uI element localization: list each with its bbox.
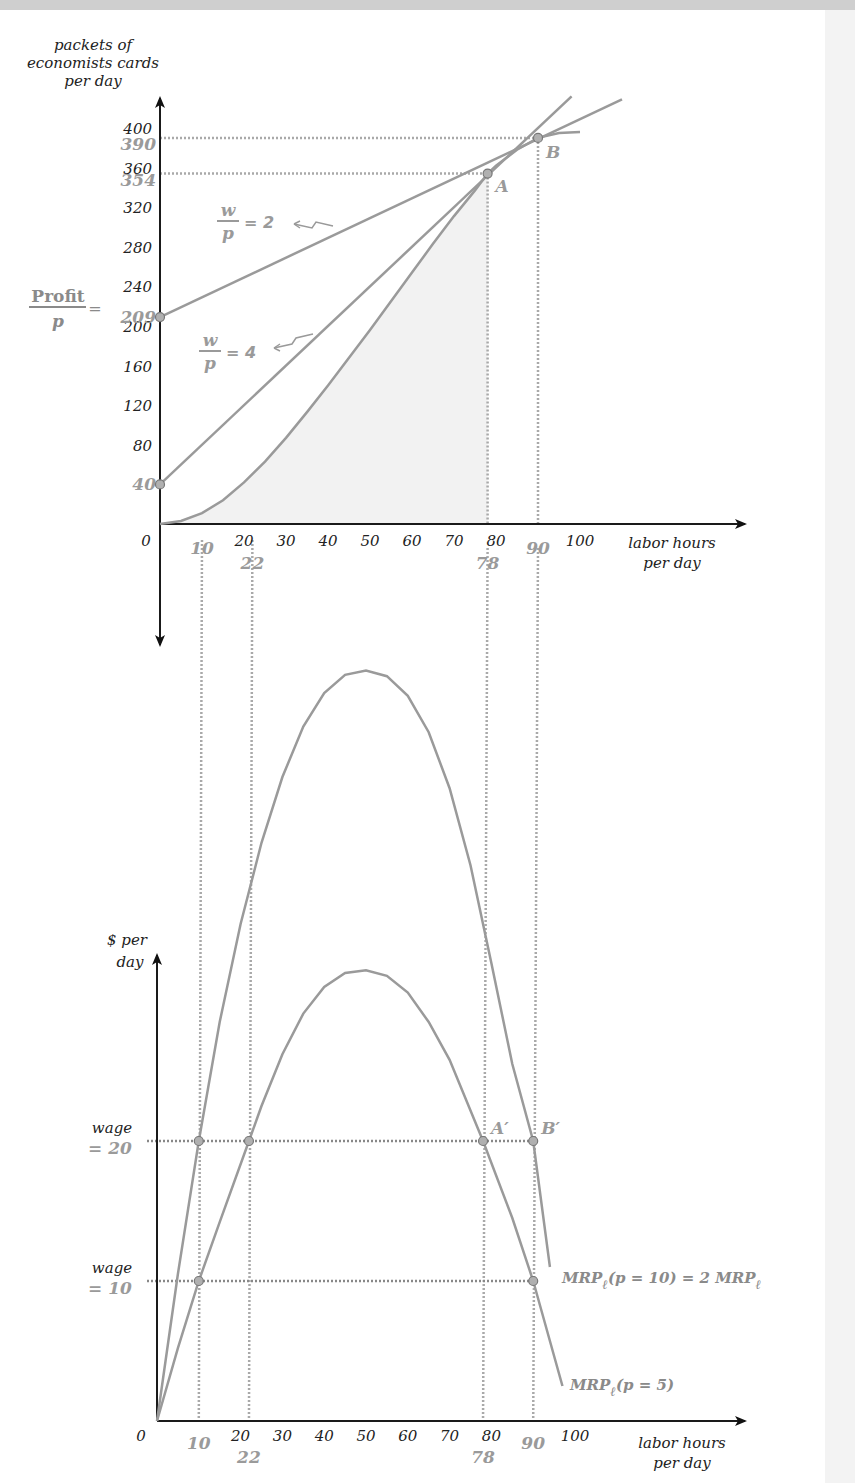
label-w-p-2-value: = 2 — [244, 213, 274, 232]
y-tick-label-80: 80 — [133, 437, 153, 455]
point-label-a: A — [494, 176, 509, 196]
guide-v-long-78 — [483, 548, 488, 1420]
x-tick-label-20: 20 — [233, 532, 254, 550]
y-tick-label-160: 160 — [123, 358, 152, 376]
y-tick-label-280: 280 — [122, 239, 152, 257]
top-x-axis-title-line-1: per day — [643, 554, 701, 572]
bottom-x-tick-label-50: 50 — [356, 1427, 376, 1445]
label-w-p-4-denominator: p — [204, 353, 216, 373]
wage-label-bottom-10: = 10 — [88, 1278, 132, 1298]
x-highlight-label-10: 10 — [190, 538, 214, 558]
label-w-p-2-denominator: p — [222, 223, 234, 243]
x-highlight-label-22: 22 — [240, 553, 265, 573]
top-y-axis-title-line-2: per day — [64, 72, 122, 90]
y-tick-label-120: 120 — [123, 397, 152, 415]
y-highlight-label-40: 40 — [132, 474, 156, 494]
bottom-x-tick-label-80: 80 — [482, 1427, 502, 1445]
point-A-prime — [479, 1137, 488, 1146]
point-intercept-209 — [156, 313, 165, 322]
label-mrp-p10: MRPℓ(p = 10) = 2 MRPℓ — [561, 1269, 761, 1292]
x-tick-label-70: 70 — [444, 532, 464, 550]
x-tick-label-80: 80 — [486, 532, 506, 550]
point-A — [483, 169, 492, 178]
y-highlight-label-390: 390 — [121, 134, 157, 154]
bottom-x-tick-label-0: 0 — [136, 1427, 146, 1445]
point-label-A-prime: A′ — [489, 1118, 509, 1138]
profit-label-numerator: Profit — [31, 286, 84, 306]
bottom-x-tick-label-100: 100 — [561, 1427, 590, 1445]
x-highlight-label-78: 78 — [476, 553, 500, 573]
label-w-p-2-numerator: w — [221, 200, 237, 220]
wage-label-top-20: wage — [92, 1119, 132, 1137]
y-highlight-label-209: 209 — [120, 307, 157, 327]
point-B — [534, 133, 543, 142]
bottom-y-axis-title-line-1: day — [116, 953, 144, 971]
point-p10-w20-left — [194, 1137, 203, 1146]
bottom-x-axis-title-line-1: per day — [653, 1454, 711, 1472]
label-w-p-4-numerator: w — [203, 330, 219, 350]
top-y-axis-title-line-0: packets of — [54, 36, 134, 54]
bottom-x-highlight-label-78: 78 — [471, 1447, 495, 1467]
bottom-x-tick-label-30: 30 — [273, 1427, 293, 1445]
bottom-x-tick-label-20: 20 — [230, 1427, 251, 1445]
wage-label-top-10: wage — [92, 1259, 132, 1277]
x-tick-label-100: 100 — [566, 532, 595, 550]
x-tick-label-40: 40 — [317, 532, 338, 550]
bottom-y-axis-title-line-0: $ per — [107, 931, 148, 949]
wage-label-bottom-20: = 20 — [88, 1138, 132, 1158]
bottom-x-highlight-label-10: 10 — [187, 1433, 211, 1453]
label-mrp-p5: MRPℓ(p = 5) — [569, 1376, 674, 1399]
labor-demand-chart: 8012016020024028032036040040209354390020… — [0, 0, 855, 1483]
bottom-x-tick-label-40: 40 — [314, 1427, 335, 1445]
point-label-b: B — [545, 142, 560, 162]
x-highlight-label-90: 90 — [526, 538, 550, 558]
top-y-axis-title-line-1: economists cards — [27, 54, 159, 72]
guide-v-long-10 — [199, 540, 202, 1420]
point-label-B-prime: B′ — [540, 1118, 560, 1138]
y-tick-label-240: 240 — [122, 278, 152, 296]
profit-label-denominator: p — [52, 311, 64, 331]
bottom-x-tick-label-70: 70 — [440, 1427, 460, 1445]
bottom-x-highlight-label-22: 22 — [236, 1447, 261, 1467]
point-intercept-40 — [156, 480, 165, 489]
profit-label-equals: = — [88, 299, 101, 318]
point-B-prime — [529, 1137, 538, 1146]
guide-v-long-22 — [249, 540, 252, 1420]
bottom-x-highlight-label-90: 90 — [521, 1433, 545, 1453]
point-p5-w20-left — [244, 1137, 253, 1146]
label-w-p-4-value: = 4 — [226, 343, 256, 362]
y-tick-label-320: 320 — [123, 199, 152, 217]
point-p5-w10-right — [529, 1277, 538, 1286]
point-p5-w10-left — [194, 1277, 203, 1286]
x-tick-label-50: 50 — [360, 532, 380, 550]
x-tick-label-30: 30 — [276, 532, 296, 550]
y-highlight-label-354: 354 — [121, 170, 157, 190]
bottom-x-axis-title-line-0: labor hours — [638, 1434, 726, 1452]
mrp-p10-curve — [157, 671, 550, 1421]
x-tick-label-60: 60 — [402, 532, 422, 550]
top-x-axis-title-line-0: labor hours — [628, 534, 716, 552]
bottom-x-tick-label-60: 60 — [398, 1427, 418, 1445]
x-tick-label-0: 0 — [141, 532, 151, 550]
